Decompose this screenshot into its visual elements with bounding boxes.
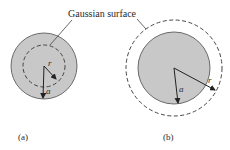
panel-b: a r (b) (126, 20, 222, 142)
caption-b: (b) (163, 132, 174, 142)
gaussian-surface-diagram: r a (a) Gaussian surface a r (b) (0, 0, 230, 150)
caption-a: (a) (18, 132, 28, 142)
radius-label-r-a: r (48, 58, 52, 68)
callout-leader-b (137, 19, 146, 29)
radius-label-a-a: a (46, 86, 51, 96)
panel-a: r a (a) (11, 33, 77, 142)
gaussian-surface-label: Gaussian surface (68, 8, 137, 19)
radius-label-r-b: r (208, 75, 212, 85)
radius-label-a-b: a (179, 84, 184, 94)
